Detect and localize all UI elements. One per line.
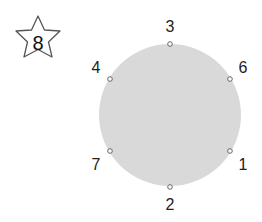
point-1: 1 bbox=[228, 149, 248, 173]
point-label: 6 bbox=[239, 59, 248, 76]
point-label: 2 bbox=[166, 196, 175, 213]
point-4: 4 bbox=[92, 59, 113, 81]
point-label: 3 bbox=[166, 18, 175, 35]
star-number: 8 bbox=[32, 32, 43, 54]
point-label: 7 bbox=[92, 156, 101, 173]
point-2: 2 bbox=[166, 185, 175, 213]
point-label: 1 bbox=[239, 156, 248, 173]
main-circle bbox=[99, 44, 241, 186]
diagram: 8 3 6 1 2 7 4 bbox=[0, 0, 262, 222]
point-3: 3 bbox=[166, 18, 175, 46]
point-7: 7 bbox=[92, 149, 113, 173]
star-badge: 8 bbox=[16, 16, 60, 57]
point-6: 6 bbox=[228, 59, 248, 81]
point-label: 4 bbox=[92, 59, 101, 76]
